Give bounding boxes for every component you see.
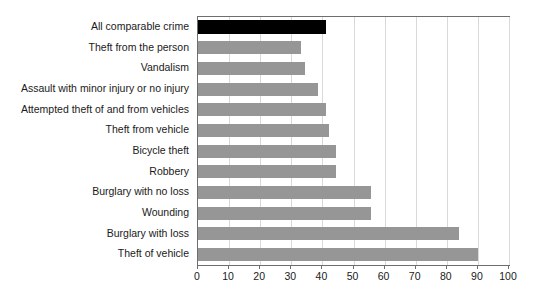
x-tick-mark: [508, 265, 509, 269]
bar-row: [198, 182, 509, 203]
category-label: Burglary with loss: [0, 223, 193, 244]
bar-row: [198, 141, 509, 162]
bar[interactable]: [198, 227, 459, 240]
bar[interactable]: [198, 165, 336, 178]
x-tick-mark: [290, 265, 291, 269]
x-tick-mark: [415, 265, 416, 269]
category-label: Robbery: [0, 161, 193, 182]
bar-row: [198, 79, 509, 100]
x-tick-label: 70: [409, 270, 421, 282]
category-label: Burglary with no loss: [0, 181, 193, 202]
category-label: Theft of vehicle: [0, 243, 193, 264]
category-label: All comparable crime: [0, 16, 193, 37]
bar[interactable]: [198, 145, 336, 158]
category-label: Vandalism: [0, 57, 193, 78]
bar-row: [198, 224, 509, 245]
x-tick-mark: [197, 265, 198, 269]
bar[interactable]: [198, 41, 301, 54]
bar[interactable]: [198, 186, 371, 199]
bars-container: [198, 17, 509, 265]
bar[interactable]: [198, 124, 329, 137]
x-tick-mark: [477, 265, 478, 269]
x-tick-label: 20: [253, 270, 265, 282]
bar[interactable]: [198, 62, 305, 75]
x-tick-mark: [259, 265, 260, 269]
bar-row: [198, 244, 509, 265]
bar[interactable]: [198, 248, 478, 261]
plot-area: [197, 16, 510, 266]
x-tick-label: 30: [284, 270, 296, 282]
bar[interactable]: [198, 20, 326, 34]
category-label: Attempted theft of and from vehicles: [0, 99, 193, 120]
gridline-100: [509, 17, 510, 265]
x-tick-label: 50: [347, 270, 359, 282]
bar-row: [198, 100, 509, 121]
x-axis: 0102030405060708090100: [197, 265, 510, 292]
x-tick-label: 90: [471, 270, 483, 282]
bar-row: [198, 162, 509, 183]
x-tick-label: 10: [222, 270, 234, 282]
x-tick-mark: [321, 265, 322, 269]
bar-row: [198, 203, 509, 224]
bar[interactable]: [198, 83, 318, 96]
category-label: Bicycle theft: [0, 140, 193, 161]
x-tick-label: 100: [499, 270, 517, 282]
category-label: Theft from the person: [0, 37, 193, 58]
bar-row: [198, 120, 509, 141]
x-tick-mark: [228, 265, 229, 269]
x-tick-label: 80: [440, 270, 452, 282]
category-label: Wounding: [0, 202, 193, 223]
bar[interactable]: [198, 103, 326, 116]
x-tick-label: 0: [194, 270, 200, 282]
bar-chart: All comparable crimeTheft from the perso…: [0, 0, 541, 292]
bar-row: [198, 17, 509, 38]
x-tick-label: 40: [316, 270, 328, 282]
category-axis-labels: All comparable crimeTheft from the perso…: [0, 16, 193, 264]
x-tick-mark: [384, 265, 385, 269]
x-tick-mark: [446, 265, 447, 269]
x-tick-label: 60: [378, 270, 390, 282]
x-tick-mark: [353, 265, 354, 269]
bar-row: [198, 58, 509, 79]
bar[interactable]: [198, 207, 371, 220]
bar-row: [198, 38, 509, 59]
category-label: Assault with minor injury or no injury: [0, 78, 193, 99]
category-label: Theft from vehicle: [0, 119, 193, 140]
